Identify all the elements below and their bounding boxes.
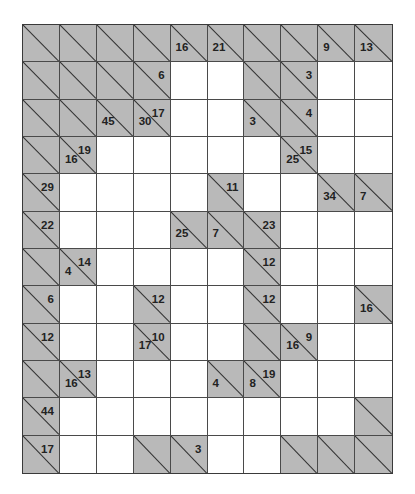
entry-cell[interactable] <box>355 249 392 286</box>
entry-cell[interactable] <box>97 174 134 211</box>
across-clue: 19 <box>78 145 91 157</box>
block-cell <box>23 100 60 137</box>
entry-cell[interactable] <box>355 212 392 249</box>
entry-cell[interactable] <box>208 398 245 435</box>
entry-cell[interactable] <box>60 286 97 323</box>
entry-cell[interactable] <box>171 62 208 99</box>
clue-cell: 198 <box>244 361 281 398</box>
entry-cell[interactable] <box>171 398 208 435</box>
entry-cell[interactable] <box>97 324 134 361</box>
entry-cell[interactable] <box>244 398 281 435</box>
entry-cell[interactable] <box>97 212 134 249</box>
down-clue: 16 <box>65 378 78 390</box>
entry-cell[interactable] <box>134 398 171 435</box>
across-clue: 11 <box>226 182 238 194</box>
entry-cell[interactable] <box>318 286 355 323</box>
entry-cell[interactable] <box>281 361 318 398</box>
clue-cell: 1916 <box>60 137 97 174</box>
across-clue: 6 <box>47 294 53 306</box>
entry-cell[interactable] <box>171 361 208 398</box>
entry-cell[interactable] <box>134 249 171 286</box>
across-clue: 23 <box>263 220 276 232</box>
down-clue: 4 <box>65 266 71 278</box>
clue-cell: 16 <box>355 286 392 323</box>
entry-cell[interactable] <box>208 286 245 323</box>
entry-cell[interactable] <box>244 174 281 211</box>
entry-cell[interactable] <box>318 137 355 174</box>
entry-cell[interactable] <box>355 137 392 174</box>
diagonal-divider <box>23 361 59 397</box>
entry-cell[interactable] <box>60 324 97 361</box>
down-clue: 45 <box>102 116 115 128</box>
diagonal-divider <box>244 62 280 98</box>
clue-cell: 9 <box>318 25 355 62</box>
entry-cell[interactable] <box>208 249 245 286</box>
entry-cell[interactable] <box>208 436 245 473</box>
entry-cell[interactable] <box>281 286 318 323</box>
entry-cell[interactable] <box>355 324 392 361</box>
entry-cell[interactable] <box>318 100 355 137</box>
entry-cell[interactable] <box>208 137 245 174</box>
down-clue: 8 <box>249 378 255 390</box>
entry-cell[interactable] <box>60 436 97 473</box>
entry-cell[interactable] <box>355 361 392 398</box>
entry-cell[interactable] <box>171 286 208 323</box>
entry-cell[interactable] <box>171 324 208 361</box>
entry-cell[interactable] <box>134 174 171 211</box>
clue-cell: 4 <box>281 100 318 137</box>
diagonal-divider <box>60 100 96 136</box>
entry-cell[interactable] <box>208 324 245 361</box>
entry-cell[interactable] <box>97 398 134 435</box>
entry-cell[interactable] <box>318 212 355 249</box>
clue-cell: 3 <box>171 436 208 473</box>
entry-cell[interactable] <box>60 212 97 249</box>
diagonal-divider <box>60 62 96 98</box>
across-clue: 6 <box>158 70 164 82</box>
block-cell <box>60 62 97 99</box>
down-clue: 3 <box>249 116 255 128</box>
across-clue: 44 <box>41 406 54 418</box>
diagonal-divider <box>318 436 354 473</box>
entry-cell[interactable] <box>281 249 318 286</box>
entry-cell[interactable] <box>281 398 318 435</box>
entry-cell[interactable] <box>97 137 134 174</box>
across-clue: 19 <box>263 369 276 381</box>
clue-cell: 7 <box>208 212 245 249</box>
entry-cell[interactable] <box>171 174 208 211</box>
entry-cell[interactable] <box>318 398 355 435</box>
entry-cell[interactable] <box>97 249 134 286</box>
entry-cell[interactable] <box>134 212 171 249</box>
entry-cell[interactable] <box>134 361 171 398</box>
down-clue: 7 <box>360 191 366 203</box>
entry-cell[interactable] <box>318 249 355 286</box>
across-clue: 9 <box>306 332 312 344</box>
entry-cell[interactable] <box>97 436 134 473</box>
clue-cell: 21 <box>208 25 245 62</box>
block-cell <box>23 62 60 99</box>
entry-cell[interactable] <box>208 62 245 99</box>
entry-cell[interactable] <box>208 100 245 137</box>
entry-cell[interactable] <box>318 62 355 99</box>
entry-cell[interactable] <box>134 137 171 174</box>
across-clue: 12 <box>263 257 276 269</box>
entry-cell[interactable] <box>171 100 208 137</box>
entry-cell[interactable] <box>97 286 134 323</box>
clue-cell: 16 <box>171 25 208 62</box>
entry-cell[interactable] <box>281 174 318 211</box>
entry-cell[interactable] <box>171 137 208 174</box>
entry-cell[interactable] <box>244 436 281 473</box>
entry-cell[interactable] <box>171 249 208 286</box>
entry-cell[interactable] <box>281 212 318 249</box>
block-cell <box>134 436 171 473</box>
entry-cell[interactable] <box>60 174 97 211</box>
entry-cell[interactable] <box>355 100 392 137</box>
diagonal-divider <box>281 436 317 473</box>
entry-cell[interactable] <box>318 361 355 398</box>
clue-cell: 6 <box>23 286 60 323</box>
entry-cell[interactable] <box>244 137 281 174</box>
entry-cell[interactable] <box>318 324 355 361</box>
entry-cell[interactable] <box>60 398 97 435</box>
entry-cell[interactable] <box>355 62 392 99</box>
down-clue: 16 <box>286 340 299 352</box>
entry-cell[interactable] <box>97 361 134 398</box>
